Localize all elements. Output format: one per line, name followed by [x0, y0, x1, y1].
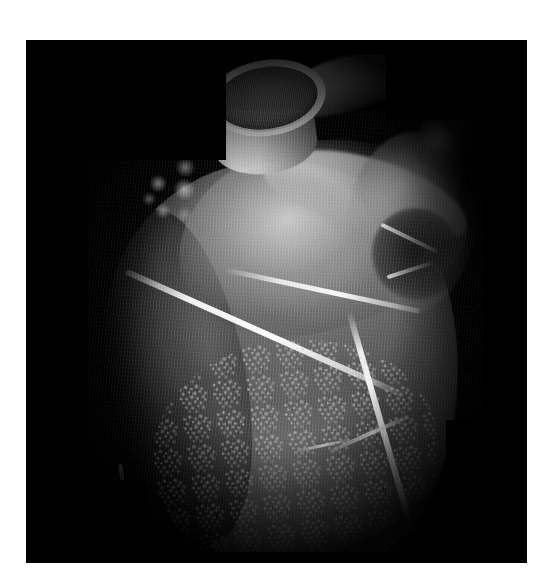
medical-image-panel	[26, 40, 527, 563]
background-mask-left	[26, 40, 88, 563]
background-mask-bottom	[26, 552, 527, 563]
fibre-striation-texture	[86, 110, 486, 563]
volume-rendered-scene	[26, 40, 527, 563]
figure-root	[0, 0, 553, 579]
background-mask-top	[26, 40, 527, 54]
background-mask-right	[484, 40, 527, 563]
